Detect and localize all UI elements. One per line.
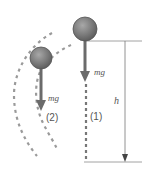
diagram-canvas: mg mg (1) (2) h — [0, 0, 142, 176]
height-arrowhead-icon — [122, 154, 128, 162]
diagram-svg — [0, 0, 142, 176]
height-label: h — [114, 95, 119, 106]
force-label-2: mg — [48, 93, 59, 103]
ball-2 — [30, 47, 52, 69]
ball-1 — [73, 17, 97, 41]
gravity-arrow-1-head-icon — [80, 71, 90, 82]
force-label-1: mg — [94, 67, 105, 77]
path-label-1: (1) — [90, 111, 102, 122]
path-label-2: (2) — [46, 112, 58, 123]
